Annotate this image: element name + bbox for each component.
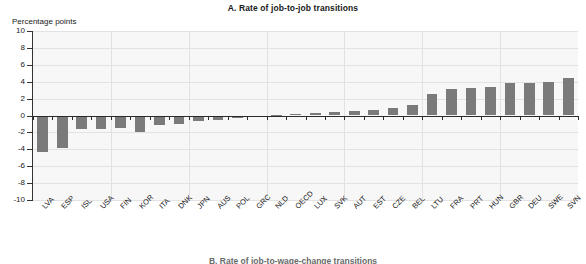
bar-svn bbox=[563, 78, 574, 115]
bar-esp bbox=[57, 116, 68, 148]
y-axis-tick bbox=[27, 200, 32, 201]
bar-kor bbox=[135, 116, 146, 132]
y-axis-tick-label: -2 bbox=[0, 128, 25, 136]
y-axis-tick bbox=[27, 99, 32, 100]
bar-lva bbox=[37, 116, 48, 152]
y-axis-tick-label: -8 bbox=[0, 179, 25, 187]
y-axis-tick-label: 8 bbox=[0, 44, 25, 52]
y-axis-unit-label: Percentage points bbox=[12, 17, 77, 26]
y-axis-tick bbox=[27, 166, 32, 167]
bar-isl bbox=[76, 116, 87, 130]
bar-bel bbox=[407, 105, 418, 115]
y-axis-tick bbox=[27, 65, 32, 66]
y-axis-tick bbox=[27, 183, 32, 184]
x-axis-tick bbox=[578, 116, 579, 120]
bar-swe bbox=[543, 82, 554, 116]
chart-title: A. Rate of job-to-job transitions bbox=[0, 3, 586, 13]
y-axis-tick-label: -4 bbox=[0, 145, 25, 153]
y-axis-tick bbox=[27, 132, 32, 133]
y-axis-tick bbox=[27, 116, 32, 117]
y-axis-tick bbox=[27, 31, 32, 32]
y-axis-tick-label: -10 bbox=[0, 196, 25, 204]
chart-figure: A. Rate of job-to-job transitions Percen… bbox=[0, 0, 586, 264]
bar-deu bbox=[524, 83, 535, 115]
y-axis-tick-label: 2 bbox=[0, 95, 25, 103]
bar-ltu bbox=[427, 94, 438, 116]
y-axis-tick-label: 4 bbox=[0, 78, 25, 86]
bar-usa bbox=[96, 116, 107, 130]
bar-cze bbox=[388, 108, 399, 116]
bar-hun bbox=[485, 87, 496, 116]
bar-fra bbox=[446, 89, 457, 115]
bar-fin bbox=[115, 116, 126, 129]
bar-prt bbox=[466, 88, 477, 116]
y-axis-tick-label: -6 bbox=[0, 162, 25, 170]
bar-gbr bbox=[505, 83, 516, 115]
next-panel-caption: B. Rate of job-to-wage-change transition… bbox=[0, 256, 586, 264]
y-axis-tick-label: 10 bbox=[0, 27, 25, 35]
y-axis-tick bbox=[27, 149, 32, 150]
y-axis-tick bbox=[27, 48, 32, 49]
y-axis-tick-label: 6 bbox=[0, 61, 25, 69]
y-axis-tick bbox=[27, 82, 32, 83]
zero-line bbox=[33, 116, 578, 118]
y-axis-tick-label: 0 bbox=[0, 112, 25, 120]
